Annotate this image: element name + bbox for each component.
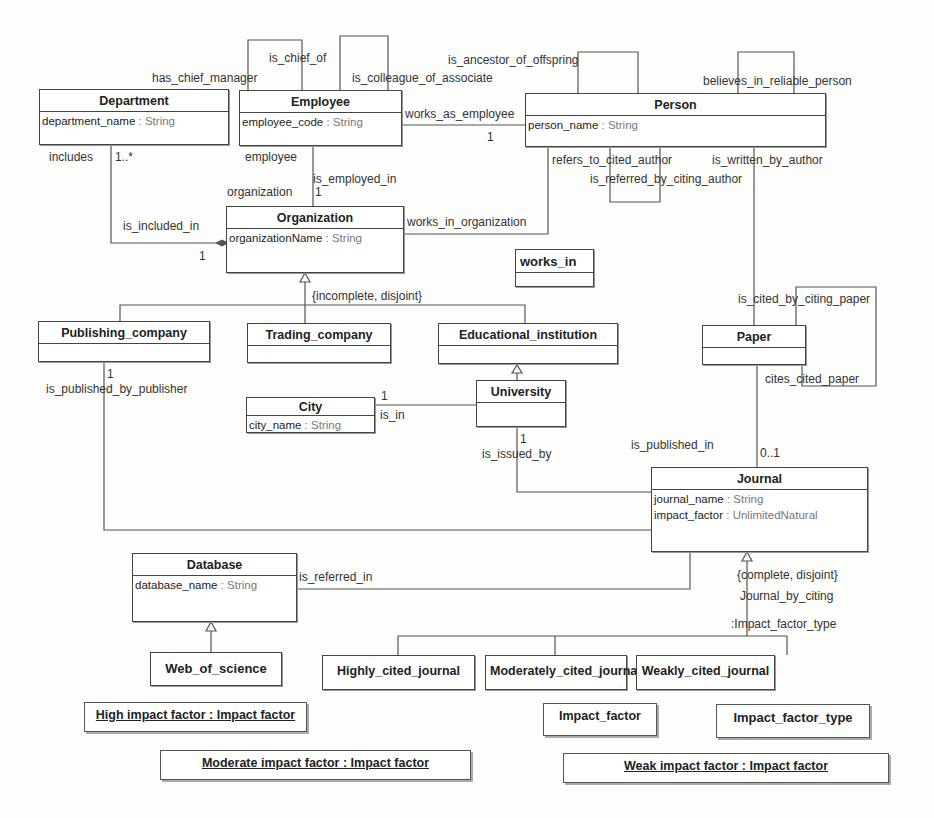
label-believes-in-reliable-person: believes_in_reliable_person <box>703 74 852 88</box>
class-name: Moderately_cited_journal <box>486 656 626 681</box>
label-is-published-in: is_published_in <box>631 438 714 452</box>
label-works-as-employee-mult: 1 <box>487 130 494 144</box>
label-is-included-in: is_included_in <box>123 219 199 233</box>
attribute-row: organizationName : String <box>227 229 403 247</box>
attribute-row: database_name : String <box>133 576 296 594</box>
instance-moderate-impact-factor[interactable]: Moderate impact factor : Impact factor <box>160 750 471 780</box>
class-name: Web_of_science <box>151 653 281 679</box>
label-city-mult: 1 <box>381 389 388 403</box>
class-name: Publishing_company <box>39 322 209 344</box>
label-university-mult: 1 <box>520 432 527 446</box>
class-name: Trading_company <box>248 324 390 346</box>
attribute-row: impact_factor : UnlimitedNatural <box>652 508 867 524</box>
class-name: Database <box>133 554 296 576</box>
instance-weak-impact-factor[interactable]: Weak impact factor : Impact factor <box>563 753 889 783</box>
label-has-chief-manager: has_chief_manager <box>152 71 257 85</box>
label-organization-mult: 1 <box>315 185 322 199</box>
class-city[interactable]: City city_name : String <box>246 397 375 433</box>
class-works-in[interactable]: works_in <box>515 249 594 287</box>
label-impact-factor-type-discriminator: :Impact_factor_type <box>731 617 836 631</box>
label-is-chief-of: is_chief_of <box>269 51 326 65</box>
class-name: Highly_cited_journal <box>323 656 474 681</box>
class-weakly-cited-journal[interactable]: Weakly_cited_journal <box>636 655 775 690</box>
attribute-row: person_name : String <box>526 116 825 134</box>
label-is-cited-by-citing-paper: is_cited_by_citing_paper <box>738 292 870 306</box>
class-trading-company[interactable]: Trading_company <box>247 323 391 363</box>
label-is-employed-in: is_employed_in <box>313 172 396 186</box>
class-educational-institution[interactable]: Educational_institution <box>438 323 618 364</box>
class-organization[interactable]: Organization organizationName : String <box>226 206 404 273</box>
label-is-published-by-publisher: is_published_by_publisher <box>46 382 187 396</box>
class-name: Journal <box>652 468 867 490</box>
label-is-referred-by-citing-author: is_referred_by_citing_author <box>590 172 742 186</box>
label-journal-mult: 0..1 <box>760 446 780 460</box>
class-name: City <box>247 398 374 416</box>
label-is-ancestor-of-offspring: is_ancestor_of_offspring <box>448 53 579 67</box>
class-employee[interactable]: Employee employee_code : String <box>239 90 402 146</box>
label-incomplete-disjoint: {incomplete, disjoint} <box>312 289 422 303</box>
attribute-row: journal_name : String <box>652 490 867 508</box>
attribute-row: city_name : String <box>247 416 374 434</box>
label-works-in-organization: works_in_organization <box>407 215 526 229</box>
attribute-row: department_name : String <box>40 112 228 130</box>
label-complete-disjoint: {complete, disjoint} <box>737 568 838 582</box>
class-name: Educational_institution <box>439 324 617 346</box>
label-cites-cited-paper: cites_cited_paper <box>765 372 859 386</box>
label-journal-by-citing: Journal_by_citing <box>740 589 833 603</box>
class-name: Organization <box>227 207 403 229</box>
label-works-as-employee: works_as_employee <box>405 107 514 121</box>
class-name: University <box>477 381 565 403</box>
class-highly-cited-journal[interactable]: Highly_cited_journal <box>322 655 475 690</box>
label-is-issued-by: is_issued_by <box>482 447 551 461</box>
class-name: works_in <box>516 250 593 273</box>
label-is-colleague-of-associate: is_colleague_of_associate <box>352 71 493 85</box>
label-includes: includes <box>49 150 93 164</box>
instance-high-impact-factor[interactable]: High impact factor : Impact factor <box>84 702 307 732</box>
label-publisher-mult: 1 <box>107 367 114 381</box>
class-name: Department <box>40 90 228 112</box>
class-name: Person <box>526 94 825 116</box>
class-database[interactable]: Database database_name : String <box>132 553 297 622</box>
class-impact-factor-type[interactable]: Impact_factor_type <box>716 704 870 738</box>
label-is-written-by-author: is_written_by_author <box>712 153 823 167</box>
label-is-included-in-mult: 1 <box>199 249 206 263</box>
label-refers-to-cited-author: refers_to_cited_author <box>552 153 672 167</box>
class-web-of-science[interactable]: Web_of_science <box>150 652 282 686</box>
class-person[interactable]: Person person_name : String <box>525 93 826 147</box>
class-name: Employee <box>240 91 401 113</box>
class-moderately-cited-journal[interactable]: Moderately_cited_journal <box>485 655 627 690</box>
label-includes-mult: 1..* <box>115 150 133 164</box>
label-organization: organization <box>227 185 292 199</box>
class-name: Weakly_cited_journal <box>637 656 774 681</box>
class-department[interactable]: Department department_name : String <box>39 89 229 145</box>
attribute-row: employee_code : String <box>240 113 401 131</box>
class-paper[interactable]: Paper <box>702 325 806 365</box>
class-university[interactable]: University <box>476 380 566 427</box>
class-journal[interactable]: Journal journal_name : String impact_fac… <box>651 467 868 552</box>
class-name: Paper <box>703 326 805 348</box>
class-impact-factor[interactable]: Impact_factor <box>543 703 657 736</box>
label-is-in: is_in <box>380 408 405 422</box>
class-publishing-company[interactable]: Publishing_company <box>38 321 210 362</box>
label-employee: employee <box>245 150 297 164</box>
label-is-referred-in: is_referred_in <box>299 570 372 584</box>
